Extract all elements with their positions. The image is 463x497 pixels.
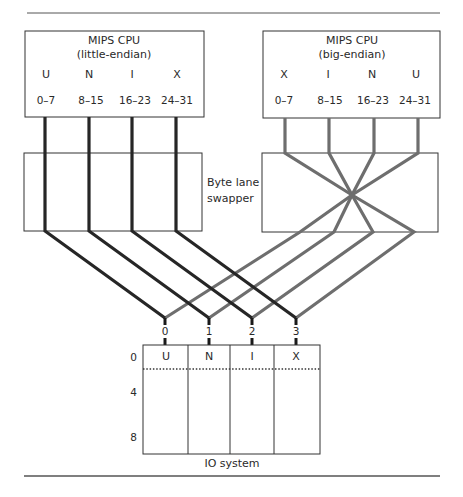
wire-n-little bbox=[89, 117, 209, 318]
right-cpu-byte: I bbox=[326, 68, 329, 81]
little-endian-wires bbox=[45, 117, 296, 318]
left-cpu-subtitle: (little-endian) bbox=[77, 48, 152, 61]
io-row-offset: 0 bbox=[130, 351, 137, 364]
right-cpu-title: MIPS CPU bbox=[326, 34, 378, 47]
io-byte: I bbox=[250, 350, 253, 363]
io-port-stubs bbox=[165, 318, 296, 345]
io-port-number: 1 bbox=[206, 325, 213, 338]
io-row-offset: 4 bbox=[130, 386, 137, 399]
left-cpu-lane: 24–31 bbox=[161, 94, 193, 107]
left-cpu-byte: I bbox=[130, 68, 133, 81]
wire-x-little bbox=[176, 117, 296, 318]
io-row-offset: 8 bbox=[130, 431, 137, 444]
io-byte: N bbox=[205, 350, 213, 363]
right-cpu-lane: 0–7 bbox=[275, 94, 294, 107]
right-cpu-byte: U bbox=[412, 68, 420, 81]
swapper-label-line2: swapper bbox=[207, 192, 254, 205]
left-cpu-lane: 8–15 bbox=[78, 94, 103, 107]
left-cpu-lane: 16–23 bbox=[119, 94, 151, 107]
big-endian-wires bbox=[165, 118, 418, 318]
left-cpu-byte: X bbox=[173, 68, 181, 81]
left-cpu-title: MIPS CPU bbox=[88, 34, 140, 47]
left-cpu-lane: 0–7 bbox=[37, 94, 56, 107]
wire-x-big bbox=[285, 118, 414, 318]
wire-i-big bbox=[252, 118, 373, 318]
io-system-label: IO system bbox=[204, 457, 259, 470]
io-byte: X bbox=[292, 350, 300, 363]
io-port-number: 0 bbox=[162, 325, 169, 338]
wire-i-little bbox=[132, 117, 252, 318]
io-port-number: 2 bbox=[249, 325, 256, 338]
wire-u-little bbox=[45, 117, 165, 318]
io-port-number: 3 bbox=[293, 325, 300, 338]
right-cpu-subtitle: (big-endian) bbox=[318, 48, 385, 61]
swapper-label-line1: Byte lane bbox=[207, 176, 259, 189]
left-cpu-byte: N bbox=[85, 68, 93, 81]
right-cpu-lane: 24–31 bbox=[399, 94, 431, 107]
right-cpu-byte: X bbox=[280, 68, 288, 81]
diagram-canvas bbox=[0, 0, 463, 497]
right-cpu-lane: 16–23 bbox=[357, 94, 389, 107]
left-cpu-byte: U bbox=[42, 68, 50, 81]
io-byte: U bbox=[162, 350, 170, 363]
right-cpu-lane: 8–15 bbox=[317, 94, 342, 107]
right-cpu-byte: N bbox=[368, 68, 376, 81]
